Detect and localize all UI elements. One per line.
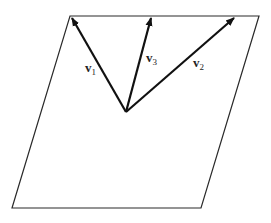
label-v1: v1 — [85, 60, 96, 77]
label-v3: v3 — [146, 50, 158, 67]
vector-v3 — [126, 18, 151, 112]
plane-diagram: v1 v3 v2 — [0, 0, 271, 223]
label-v2: v2 — [193, 55, 204, 72]
vector-v1 — [72, 18, 126, 112]
vector-v2 — [126, 18, 234, 112]
plane-parallelogram — [12, 16, 259, 208]
